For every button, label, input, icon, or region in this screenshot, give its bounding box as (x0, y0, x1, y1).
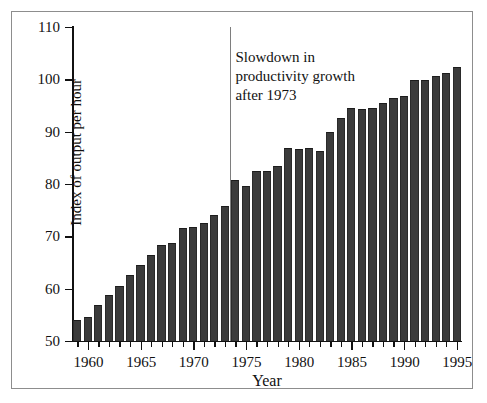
x-tick-minor (151, 341, 152, 347)
y-tick: 70 (65, 236, 72, 237)
x-tick-major: 1970 (193, 341, 194, 350)
x-tick-label: 1965 (126, 353, 156, 371)
x-tick-minor (383, 341, 384, 347)
x-tick-minor (309, 341, 310, 347)
x-tick-minor (330, 341, 331, 347)
plot-area: Index of output per hour 506070809010011… (72, 27, 462, 341)
x-tick-minor (109, 341, 110, 347)
bar (389, 98, 397, 341)
bar (210, 215, 218, 341)
bar (179, 228, 187, 341)
x-tick-minor (130, 341, 131, 347)
year-1973-divider (230, 27, 231, 341)
annotation-line: productivity growth (235, 67, 355, 86)
y-tick-label: 90 (45, 122, 60, 142)
x-tick-major: 1965 (141, 341, 142, 350)
bar (316, 151, 324, 341)
x-tick-minor (235, 341, 236, 347)
x-tick-minor (98, 341, 99, 347)
x-tick-label: 1975 (232, 353, 262, 371)
x-tick-minor (214, 341, 215, 347)
x-tick-minor (415, 341, 416, 347)
y-tick: 110 (65, 27, 72, 28)
x-tick-minor (267, 341, 268, 347)
bar (105, 295, 113, 341)
x-tick-major: 1985 (351, 341, 352, 350)
bar (358, 109, 366, 341)
x-tick-label: 1960 (73, 353, 103, 371)
bar (305, 148, 313, 341)
slowdown-note: Slowdown inproductivity growthafter 1973 (235, 48, 355, 105)
x-tick-minor (225, 341, 226, 347)
x-tick-minor (425, 341, 426, 347)
bar (73, 320, 81, 341)
y-tick-label: 60 (45, 279, 60, 299)
bar (147, 255, 155, 341)
x-tick-label: 1985 (337, 353, 367, 371)
bar (273, 166, 281, 341)
bar (347, 108, 355, 341)
bar (263, 171, 271, 341)
bar (421, 80, 429, 341)
x-tick-minor (372, 341, 373, 347)
x-tick-major: 1980 (299, 341, 300, 350)
y-tick-label: 50 (45, 331, 60, 351)
bar (115, 286, 123, 341)
x-tick-minor (320, 341, 321, 347)
annotation-line: after 1973 (235, 86, 355, 105)
x-axis-title: Year (72, 372, 462, 390)
bar (252, 171, 260, 341)
x-tick-minor (77, 341, 78, 347)
bar (432, 76, 440, 341)
x-tick-minor (278, 341, 279, 347)
bar (94, 305, 102, 341)
x-tick-minor (256, 341, 257, 347)
bar (221, 206, 229, 341)
bar (189, 227, 197, 341)
x-tick-minor (341, 341, 342, 347)
y-tick-label: 70 (45, 226, 60, 246)
x-tick-minor (204, 341, 205, 347)
x-tick-major: 1995 (457, 341, 458, 350)
x-tick-major: 1960 (88, 341, 89, 350)
x-tick-label: 1980 (284, 353, 314, 371)
bar (368, 108, 376, 341)
y-tick: 50 (65, 341, 72, 342)
x-tick-minor (288, 341, 289, 347)
bar (157, 245, 165, 341)
bar (453, 67, 461, 341)
y-tick: 90 (65, 132, 72, 133)
bar (231, 180, 239, 341)
bar (84, 317, 92, 341)
x-tick-minor (436, 341, 437, 347)
x-tick-minor (162, 341, 163, 347)
y-tick-label: 110 (38, 17, 60, 37)
bar (337, 118, 345, 341)
bar (295, 149, 303, 341)
x-tick-label: 1970 (179, 353, 209, 371)
bar (442, 73, 450, 341)
x-tick-major: 1990 (404, 341, 405, 350)
x-tick-minor (119, 341, 120, 347)
y-tick-label: 80 (45, 174, 60, 194)
y-tick: 100 (65, 79, 72, 80)
figure-container: Index of output per hour 506070809010011… (0, 0, 487, 403)
bar (400, 96, 408, 341)
bar (242, 186, 250, 341)
x-tick-minor (393, 341, 394, 347)
x-tick-minor (446, 341, 447, 347)
x-tick-minor (183, 341, 184, 347)
y-axis-title: Index of output per hour (68, 79, 85, 226)
bar (136, 265, 144, 341)
bar (379, 103, 387, 341)
bar (410, 80, 418, 341)
bar (126, 275, 134, 341)
x-tick-minor (362, 341, 363, 347)
y-tick: 60 (65, 289, 72, 290)
y-tick: 80 (65, 184, 72, 185)
bar (326, 132, 334, 341)
bar (168, 243, 176, 341)
bar (284, 148, 292, 341)
x-tick-major: 1975 (246, 341, 247, 350)
bar (200, 223, 208, 341)
